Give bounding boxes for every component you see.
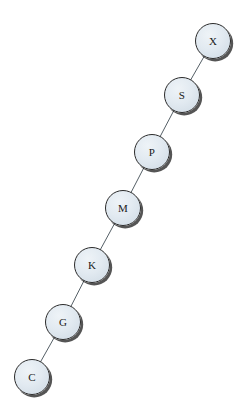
graph-node-x[interactable]: X	[195, 23, 231, 59]
graph-node-label: M	[118, 202, 128, 213]
graph-edge-g-k	[71, 280, 85, 307]
graph-node-s[interactable]: S	[164, 77, 200, 113]
graph-edge-s-x	[190, 56, 204, 81]
graph-node-label: C	[28, 371, 36, 382]
graph-node-k[interactable]: K	[74, 247, 110, 283]
graph-node-p[interactable]: P	[134, 134, 170, 170]
graph-node-label: K	[88, 259, 96, 270]
graph-canvas: CGKMPSX	[0, 0, 244, 413]
graph-node-label: G	[59, 316, 67, 327]
graph-node-label: P	[149, 146, 155, 157]
graph-edge-k-m	[100, 223, 115, 250]
graph-node-label: X	[209, 35, 217, 46]
graph-edge-p-s	[160, 110, 174, 137]
graph-node-m[interactable]: M	[105, 190, 141, 226]
graph-node-label: S	[179, 89, 185, 100]
graph-edge-m-p	[131, 167, 144, 193]
graph-node-c[interactable]: C	[14, 359, 50, 395]
graph-node-g[interactable]: G	[45, 304, 81, 340]
graph-edge-c-g	[40, 337, 54, 362]
